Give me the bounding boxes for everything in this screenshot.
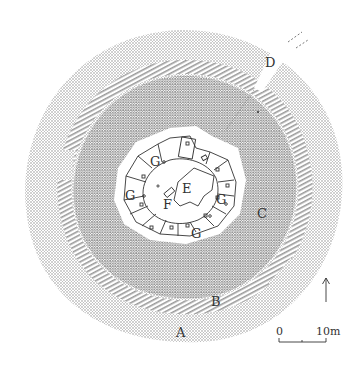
label-e: E	[182, 182, 192, 195]
label-c: C	[257, 207, 267, 220]
label-g-3: G	[216, 193, 226, 206]
scale-end-label: 10m	[316, 326, 340, 337]
site-plan	[0, 0, 360, 366]
label-a: A	[176, 326, 185, 339]
label-f: F	[163, 198, 172, 211]
label-b: B	[211, 295, 221, 308]
scale-start-label: 0	[276, 326, 283, 337]
label-g-1: G	[150, 155, 160, 168]
label-g-4: G	[191, 227, 201, 240]
scale-bar	[279, 338, 326, 342]
north-arrow-icon	[323, 278, 330, 302]
label-d: D	[265, 56, 275, 69]
label-g-2: G	[125, 189, 135, 202]
